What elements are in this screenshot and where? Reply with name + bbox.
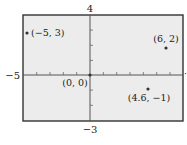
point-label: (−5, 3) [31, 27, 65, 38]
axis-end-mark: · [184, 68, 187, 79]
point-neg5-3 [25, 31, 28, 34]
x-min-label: −5 [5, 70, 20, 81]
y-min-label: −3 [83, 124, 98, 135]
point-label: (4.6, −1) [128, 92, 171, 103]
point-4_6-neg1 [146, 87, 149, 90]
y-max-label: 4 [87, 3, 93, 14]
point-label: (0, 0) [62, 77, 88, 88]
point-6-2 [164, 46, 167, 49]
point-origin [88, 73, 91, 76]
scatter-plot: 4 −3 −5 (−5, 3) (6, 2) (0, 0) (4.6, −1) … [0, 0, 187, 145]
point-label: (6, 2) [153, 33, 179, 44]
